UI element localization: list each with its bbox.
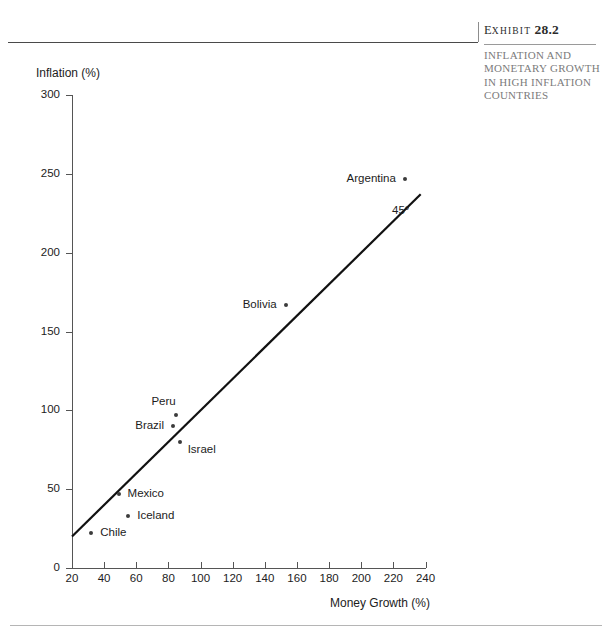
x-tick-mark	[233, 562, 234, 568]
data-point-label-iceland: Iceland	[137, 509, 174, 521]
x-tick-mark	[72, 562, 73, 568]
x-tick-mark	[361, 562, 362, 568]
x-tick-label: 240	[411, 572, 441, 584]
y-tick-mark	[66, 332, 72, 333]
x-tick-label: 220	[378, 572, 408, 584]
data-point-label-argentina: Argentina	[347, 172, 396, 184]
x-tick-label: 80	[153, 572, 183, 584]
x-tick-mark	[393, 562, 394, 568]
data-point-brazil	[171, 424, 175, 428]
y-tick-mark	[66, 568, 72, 569]
x-tick-label: 20	[57, 572, 87, 584]
y-tick-mark	[66, 489, 72, 490]
data-point-bolivia	[284, 303, 288, 307]
scatter-chart: Inflation (%) Money Growth (%) 050100150…	[0, 0, 610, 639]
y-tick-label: 200	[26, 246, 60, 258]
x-tick-mark	[168, 562, 169, 568]
y-tick-label: 250	[26, 167, 60, 179]
x-tick-mark	[297, 562, 298, 568]
reference-line-label: 45°	[392, 204, 409, 216]
x-tick-label: 200	[346, 572, 376, 584]
data-point-iceland	[126, 514, 130, 518]
y-tick-label: 0	[26, 561, 60, 573]
x-tick-label: 40	[89, 572, 119, 584]
data-point-label-brazil: Brazil	[135, 419, 164, 431]
y-tick-label: 100	[26, 403, 60, 415]
y-tick-mark	[66, 95, 72, 96]
page-bottom-rule	[10, 625, 602, 626]
x-tick-label: 180	[314, 572, 344, 584]
data-point-label-israel: Israel	[188, 443, 216, 455]
data-point-mexico	[117, 492, 121, 496]
reference-line-45deg	[0, 0, 610, 639]
y-tick-label: 150	[26, 325, 60, 337]
y-tick-mark	[66, 410, 72, 411]
data-point-label-mexico: Mexico	[128, 487, 164, 499]
data-point-argentina	[403, 177, 407, 181]
x-tick-mark	[201, 562, 202, 568]
data-point-label-bolivia: Bolivia	[243, 298, 277, 310]
x-tick-label: 100	[186, 572, 216, 584]
x-tick-label: 160	[282, 572, 312, 584]
data-point-label-chile: Chile	[100, 526, 126, 538]
x-axis-line	[72, 568, 426, 569]
x-tick-label: 140	[250, 572, 280, 584]
y-tick-mark	[66, 253, 72, 254]
x-tick-mark	[136, 562, 137, 568]
data-point-peru	[174, 413, 178, 417]
data-point-israel	[178, 440, 182, 444]
x-tick-label: 120	[218, 572, 248, 584]
x-tick-mark	[329, 562, 330, 568]
y-tick-mark	[66, 174, 72, 175]
x-tick-label: 60	[121, 572, 151, 584]
y-axis-line	[72, 95, 73, 569]
y-tick-label: 300	[26, 88, 60, 100]
data-point-label-peru: Peru	[151, 395, 175, 407]
x-tick-mark	[265, 562, 266, 568]
y-tick-label: 50	[26, 482, 60, 494]
x-axis-title: Money Growth (%)	[330, 596, 430, 610]
x-tick-mark	[426, 562, 427, 568]
y-axis-title: Inflation (%)	[36, 66, 100, 80]
x-tick-mark	[104, 562, 105, 568]
data-point-chile	[89, 531, 93, 535]
